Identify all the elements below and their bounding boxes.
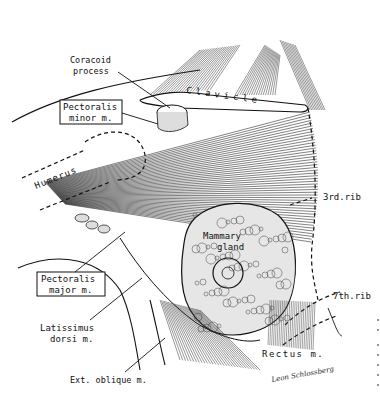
label-ext-oblique: Ext. oblique m. <box>70 375 147 385</box>
hatch-line <box>53 165 317 191</box>
hatch-line <box>48 131 313 185</box>
hatch-line <box>201 46 234 91</box>
hatch-line <box>163 301 186 361</box>
hatch-line <box>210 45 240 90</box>
hatch-line <box>282 41 312 110</box>
label-third-rib: 3rd.rib <box>323 192 361 202</box>
label-pec-major-2: major m. <box>49 285 92 295</box>
label-mammary-1: Mammary <box>203 231 242 241</box>
hatch-line <box>47 126 312 185</box>
hatch-line <box>287 42 317 110</box>
artist-signature: Leon Schlossberg <box>270 365 335 384</box>
hatch-line <box>308 302 310 350</box>
hatch-line <box>47 123 312 184</box>
hatch-line <box>285 42 315 110</box>
hatch-line <box>293 301 295 348</box>
leader-pec-major <box>75 232 125 272</box>
leader-pec-minor <box>122 113 158 124</box>
hatch-line <box>304 302 306 349</box>
hatch-line <box>256 50 273 95</box>
label-seventh-rib: 7th.rib <box>333 291 371 301</box>
hatch-line <box>280 40 310 110</box>
hatch-line <box>290 43 320 110</box>
leader-seventh-rib <box>328 308 342 336</box>
label-coracoid-2: process <box>73 66 109 76</box>
sternal-border-dash <box>308 108 318 300</box>
label-pec-minor-2: minor m. <box>69 113 112 123</box>
gland-lobule <box>193 213 197 217</box>
label-pec-major-1: Pectoralis <box>41 274 95 284</box>
hatch-line <box>297 301 299 348</box>
hatch-line <box>237 46 266 95</box>
gland-lobule <box>279 317 283 321</box>
hatch-line <box>196 46 231 91</box>
hatch-line <box>300 301 302 348</box>
third-rib-dash <box>290 198 312 205</box>
hatch-line <box>306 302 308 350</box>
hatch-line <box>299 301 301 348</box>
pec-minor-tendon <box>157 112 188 132</box>
hatch-line <box>240 46 267 95</box>
label-rectus: Rectus m. <box>262 349 324 359</box>
label-mammary-2: gland <box>217 242 244 252</box>
hatch-line <box>302 302 304 349</box>
anatomy-illustration: Coracoid process Clavicle Pectoralis min… <box>0 0 380 405</box>
label-latissimus-2: dorsi m. <box>50 334 93 344</box>
hatch-line <box>51 148 316 188</box>
hatch-line <box>249 49 270 95</box>
hatch-line <box>242 47 268 95</box>
hatch-line <box>295 45 325 110</box>
label-pec-minor-1: Pectoralis <box>63 102 117 112</box>
hatch-line <box>309 302 311 350</box>
hatch-line <box>290 301 292 347</box>
label-coracoid-1: Coracoid <box>70 55 111 65</box>
hatch-line <box>291 301 293 348</box>
hatch-line <box>292 44 322 110</box>
hatch-line <box>247 48 270 95</box>
hatch-line <box>295 301 297 348</box>
hatch-line <box>270 54 278 95</box>
hatch-line <box>166 301 192 361</box>
hatch-line <box>293 44 323 110</box>
label-latissimus-1: Latissimus <box>40 323 94 333</box>
latissimus-contour <box>150 300 165 365</box>
hatch-line <box>288 43 318 110</box>
leader-ext-oblique <box>125 338 165 372</box>
right-edge-marks <box>377 320 379 385</box>
